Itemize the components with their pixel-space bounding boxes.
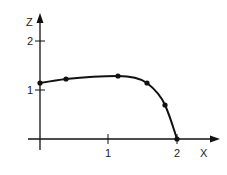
data-point (115, 73, 120, 78)
chart: 1 2 X 1 2 Z (0, 0, 227, 175)
x-axis-arrow-icon (210, 136, 220, 143)
z-axis-label: Z (26, 16, 33, 28)
x-axis: 1 2 X (28, 134, 220, 159)
x-axis-label: X (200, 147, 208, 159)
z-tick-2: 2 (27, 35, 33, 47)
x-tick-1: 1 (105, 147, 111, 159)
data-point (63, 76, 68, 81)
z-axis: 1 2 Z (26, 13, 45, 150)
data-point (162, 102, 167, 107)
data-point (174, 136, 179, 141)
z-axis-arrow-icon (37, 13, 44, 23)
curve-series (37, 73, 179, 141)
x-tick-2: 2 (174, 147, 180, 159)
data-point (37, 80, 42, 85)
data-point (144, 80, 149, 85)
z-tick-1: 1 (27, 84, 33, 96)
